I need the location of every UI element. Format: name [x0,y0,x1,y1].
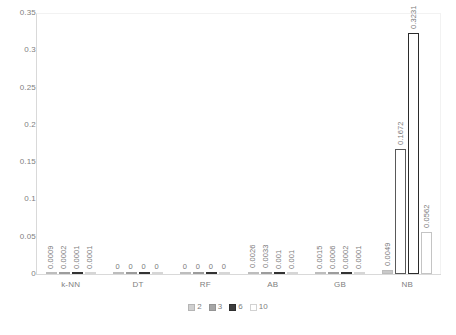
category-label-DT: DT [104,280,171,289]
bar-slot: 0.001 [274,13,285,274]
legend-item-6[interactable]: 6 [229,303,242,311]
bar-value-label: 0.0026 [249,245,257,269]
bar-series-3 [59,272,70,274]
bar-group: 0000 [104,13,171,274]
legend-item-3[interactable]: 3 [209,303,222,311]
bar-series-10 [354,272,365,274]
bar-group-bars: 0000 [104,13,171,274]
bar-slot: 0.0049 [382,13,393,274]
bar-series-10 [287,272,298,274]
category-label-AB: AB [239,280,306,289]
legend-label: 2 [197,303,201,311]
bar-value-label: 0.0562 [423,205,431,229]
bar-series-2 [315,272,326,274]
y-axis-tick-label: 0.2 [2,121,36,129]
bar-series-2 [248,272,259,274]
bar-slot: 0 [219,13,230,274]
bar-series-6 [206,272,217,274]
legend-swatch-icon [229,304,236,311]
legend-item-10[interactable]: 10 [250,303,268,311]
bar-slot: 0.0562 [421,13,432,274]
bar-value-label: 0.3231 [410,6,418,30]
bar-value-label: 0.0002 [342,245,350,269]
bar-value-label: 0 [196,263,200,271]
y-axis-tick-label: 0.35 [2,9,36,17]
y-axis-tick-label: 0.15 [2,158,36,166]
y-axis-tick-label: 0 [2,270,36,278]
bar-value-label: 0 [209,263,213,271]
y-axis-tick-label: 0.25 [2,84,36,92]
bar-series-2 [46,272,57,274]
bar-value-label: 0.0049 [384,243,392,267]
bar-value-label: 0 [183,263,187,271]
bar-slot: 0 [206,13,217,274]
bar-value-label: 0.001 [275,249,283,268]
bar-value-label: 0.0006 [329,245,337,269]
legend-label: 10 [259,303,268,311]
bar-slot: 0 [193,13,204,274]
legend: 23610 [0,303,456,311]
bar-value-label: 0.001 [288,249,296,268]
y-axis-tick-label: 0.05 [2,233,36,241]
bar-group-bars: 0.00090.00020.00010.0001 [37,13,104,274]
category-label-RF: RF [172,280,239,289]
bar-group-bars: 0000 [172,13,239,274]
bar-slot: 0.0006 [328,13,339,274]
bar-slot: 0.0026 [248,13,259,274]
bar-series-6 [408,33,419,274]
bar-slot: 0 [152,13,163,274]
legend-swatch-icon [188,304,195,311]
bar-value-label: 0.0002 [60,245,68,269]
bar-series-2 [180,272,191,274]
bar-series-3 [126,272,137,274]
bar-group: 0.00260.00330.0010.001 [239,13,306,274]
legend-label: 6 [238,303,242,311]
bar-series-3 [261,272,272,274]
bar-slot: 0.0009 [46,13,57,274]
bar-series-10 [219,272,230,274]
bar-series-2 [382,270,393,274]
bar-value-label: 0.0033 [262,244,270,268]
bar-series-3 [328,272,339,274]
y-axis-tick-label: 0.1 [2,195,36,203]
bar-group-bars: 0.00260.00330.0010.001 [239,13,306,274]
bar-value-label: 0.0001 [86,245,94,269]
bar-series-10 [85,272,96,274]
bar-value-label: 0 [222,263,226,271]
bar-value-label: 0 [128,263,132,271]
bar-value-label: 0 [141,263,145,271]
bar-group: 0.00490.16720.32310.0562 [374,13,441,274]
bar-slot: 0.0033 [261,13,272,274]
legend-label: 3 [218,303,222,311]
bar-slot: 0.0002 [59,13,70,274]
bar-slot: 0 [126,13,137,274]
bar-group-bars: 0.00490.16720.32310.0562 [374,13,441,274]
bar-slot: 0.001 [287,13,298,274]
bar-series-2 [113,272,124,274]
category-label-k-NN: k-NN [37,280,104,289]
bar-value-label: 0 [154,263,158,271]
bar-series-6 [274,272,285,274]
bar-slot: 0 [139,13,150,274]
bar-slot: 0 [180,13,191,274]
bar-series-3 [193,272,204,274]
bar-series-10 [152,272,163,274]
bar-chart: 0.350.30.250.20.150.10.050 0.00090.00020… [0,0,456,335]
bar-group: 0.00090.00020.00010.0001 [37,13,104,274]
bar-group: 0000 [172,13,239,274]
bar-slot: 0 [113,13,124,274]
legend-swatch-icon [250,304,257,311]
bar-value-label: 0.0001 [355,245,363,269]
category-label-NB: NB [374,280,441,289]
bar-slot: 0.0002 [341,13,352,274]
bar-series-6 [341,272,352,274]
bar-group: 0.00150.00060.00020.0001 [306,13,373,274]
bar-slot: 0.0001 [354,13,365,274]
plot-area: 0.00090.00020.00010.0001000000000.00260.… [37,13,441,274]
y-axis-tick-label: 0.3 [2,46,36,54]
bar-slot: 0.3231 [408,13,419,274]
legend-item-2[interactable]: 2 [188,303,201,311]
bar-slot: 0.0015 [315,13,326,274]
bar-value-label: 0.0009 [47,245,55,269]
legend-swatch-icon [209,304,216,311]
